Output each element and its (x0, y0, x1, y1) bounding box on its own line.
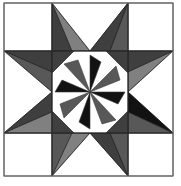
corner-square-bottom-right (128, 133, 173, 176)
center-star-layer (52, 51, 128, 133)
corner-square-top-right (128, 3, 173, 51)
quilt-block-canvas: Eight-Pointed Star Quilt Block Grayscale… (0, 0, 181, 186)
corner-square-bottom-left (4, 133, 52, 176)
corner-square-top-left (4, 3, 52, 51)
quilt-block-illustration: Eight-Pointed Star Quilt Block Grayscale… (0, 0, 181, 186)
